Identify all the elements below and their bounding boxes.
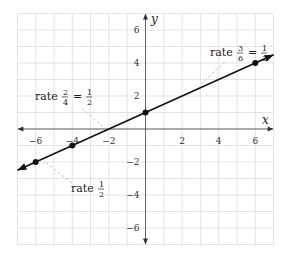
y-tick-label: 2 xyxy=(134,91,140,101)
coordinate-plane: −6−4−2246642−2−4−6 y x rate 2 4 = 1 2 ra… xyxy=(0,0,289,257)
x-axis-arrow-right-icon xyxy=(268,127,274,132)
svg-text:2: 2 xyxy=(99,190,104,199)
y-tick-label: 6 xyxy=(134,25,140,35)
y-tick-label: −2 xyxy=(126,157,139,167)
axes xyxy=(17,14,273,245)
svg-text:3: 3 xyxy=(238,44,243,53)
svg-text:1: 1 xyxy=(87,88,92,97)
annotation-rate-1-2: rate 1 2 xyxy=(71,180,104,199)
svg-text:rate: rate xyxy=(210,46,233,59)
svg-text:1: 1 xyxy=(99,180,104,189)
data-point xyxy=(33,159,39,165)
svg-text:rate: rate xyxy=(35,90,58,103)
svg-text:=: = xyxy=(73,90,82,103)
leader-line xyxy=(45,162,72,183)
data-point xyxy=(143,110,149,116)
line-arrow-left-icon xyxy=(17,163,27,170)
y-axis-arrow-down-icon xyxy=(143,239,148,245)
data-point xyxy=(69,143,75,149)
y-tick-label: −4 xyxy=(126,190,140,200)
svg-text:rate: rate xyxy=(71,182,94,195)
x-axis-arrow-left-icon xyxy=(17,127,23,132)
y-axis-arrow-up-icon xyxy=(143,14,148,20)
svg-text:=: = xyxy=(248,46,257,59)
svg-text:2: 2 xyxy=(87,98,92,107)
x-tick-label: −6 xyxy=(29,136,43,146)
y-axis-label: y xyxy=(150,12,158,26)
data-point xyxy=(252,60,258,66)
svg-text:4: 4 xyxy=(63,98,68,107)
y-tick-label: 4 xyxy=(134,58,140,68)
svg-text:6: 6 xyxy=(238,54,243,63)
x-tick-label: 2 xyxy=(179,136,185,146)
svg-text:1: 1 xyxy=(262,44,267,53)
x-tick-label: −2 xyxy=(102,136,115,146)
x-axis-label: x xyxy=(262,113,269,127)
svg-text:2: 2 xyxy=(262,54,267,63)
x-tick-label: 6 xyxy=(252,136,258,146)
annotation-rate-2-4: rate 2 4 = 1 2 xyxy=(35,88,92,107)
leader-line xyxy=(82,108,105,129)
x-tick-label: 4 xyxy=(216,136,222,146)
y-tick-label: −6 xyxy=(126,223,140,233)
svg-text:2: 2 xyxy=(63,88,68,97)
